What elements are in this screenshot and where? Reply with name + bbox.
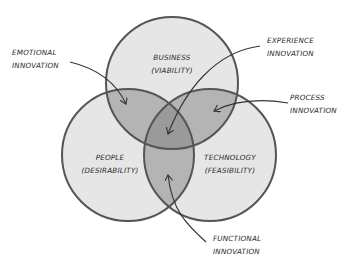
- functional-innovation-label-2: INNOVATION: [213, 247, 260, 256]
- people-sublabel: (DESIRABILITY): [81, 166, 138, 175]
- technology-label: TECHNOLOGY: [204, 153, 256, 162]
- technology-sublabel: (FEASIBILITY): [205, 166, 255, 175]
- business-sublabel: (VIABILITY): [151, 66, 193, 75]
- functional-innovation-label: FUNCTIONAL: [213, 234, 261, 243]
- business-label: BUSINESS: [153, 53, 190, 62]
- process-innovation-label-2: INNOVATION: [290, 106, 337, 115]
- emotional-innovation-label-2: INNOVATION: [12, 61, 59, 70]
- experience-innovation-label: EXPERIENCE: [267, 36, 314, 45]
- process-innovation-label: PROCESS: [290, 93, 325, 102]
- experience-innovation-label-2: INNOVATION: [267, 49, 314, 58]
- venn-diagram: BUSINESS (VIABILITY) PEOPLE (DESIRABILIT…: [0, 0, 352, 265]
- people-label: PEOPLE: [96, 153, 125, 162]
- emotional-innovation-label: EMOTIONAL: [12, 48, 57, 57]
